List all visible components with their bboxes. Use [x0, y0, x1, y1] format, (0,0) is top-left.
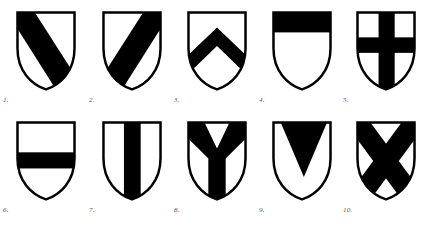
- figure-number-6: 6.: [3, 207, 9, 214]
- pale-charge: [124, 120, 141, 202]
- heraldic-ordinaries-plate: 1. 2.: [0, 0, 432, 225]
- figure-bend-sinister: 2.: [86, 2, 172, 114]
- shield-pale: [101, 120, 163, 202]
- cross-fess-arm: [355, 37, 417, 53]
- figure-number-1: 1.: [3, 97, 9, 104]
- figure-number-8: 8.: [174, 207, 180, 214]
- figure-chevron: 3.: [171, 2, 257, 114]
- shield-chief: [271, 10, 333, 92]
- figure-pile: 9.: [256, 112, 342, 224]
- figure-number-2: 2.: [89, 97, 95, 104]
- figure-pale: 7.: [86, 112, 172, 224]
- fess-charge: [15, 152, 77, 168]
- shield-bend-sinister: [101, 10, 163, 92]
- shield-bend: [15, 10, 77, 92]
- figure-number-9: 9.: [259, 207, 265, 214]
- figure-fess: 6.: [0, 112, 86, 224]
- shield-fess: [15, 120, 77, 202]
- figure-number-4: 4.: [259, 97, 265, 104]
- figure-saltire: 10.: [340, 112, 426, 224]
- shield-row-top: 1. 2.: [0, 2, 432, 114]
- shield-row-bottom: 6. 7.: [0, 112, 432, 224]
- shield-cross: [355, 10, 417, 92]
- shield-pall: [186, 120, 248, 202]
- figure-number-10: 10.: [343, 207, 352, 214]
- shield-pile: [271, 120, 333, 202]
- figure-bend: 1.: [0, 2, 86, 114]
- figure-pall: 8.: [171, 112, 257, 224]
- figure-number-5: 5.: [343, 97, 349, 104]
- figure-chief: 4.: [256, 2, 342, 114]
- figure-cross: 5.: [340, 2, 426, 114]
- shield-chevron: [186, 10, 248, 92]
- shield-saltire: [355, 120, 417, 202]
- figure-number-3: 3.: [174, 97, 180, 104]
- figure-number-7: 7.: [89, 207, 95, 214]
